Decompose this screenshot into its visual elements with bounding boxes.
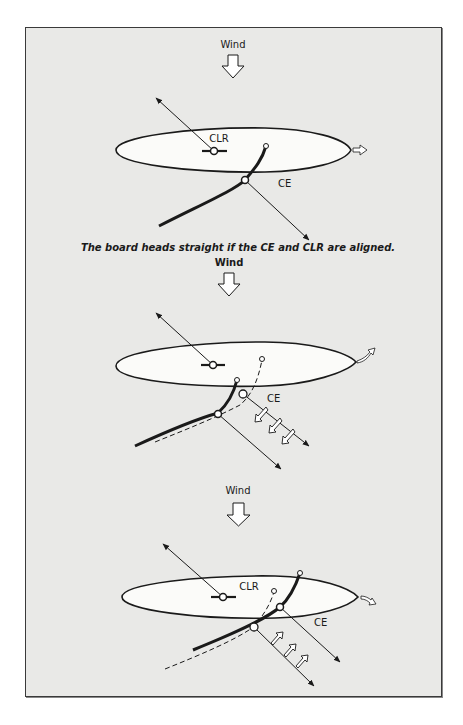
small-force-arrow-icon bbox=[282, 429, 295, 444]
wind-arrow-icon bbox=[218, 273, 240, 296]
ce-point-icon bbox=[239, 390, 247, 398]
turn-arrow-icon bbox=[361, 596, 376, 605]
sail-balance-diagram: Wind CLR CE The board heads straight if … bbox=[0, 0, 463, 725]
wind-arrow-icon bbox=[227, 503, 250, 526]
direction-arrow-icon bbox=[353, 145, 367, 155]
small-force-arrow-icon bbox=[255, 407, 268, 422]
mast-foot-icon bbox=[298, 571, 303, 576]
caption: The board heads straight if the CE and C… bbox=[81, 242, 395, 253]
old-ce-point-icon bbox=[250, 623, 258, 631]
clr-label: CLR bbox=[209, 133, 229, 144]
wind-label: Wind bbox=[225, 485, 250, 496]
panel-aligned: Wind CLR CE The board heads straight if … bbox=[81, 39, 395, 253]
small-force-arrow-icon bbox=[284, 644, 296, 657]
old-ce-point-icon bbox=[215, 411, 222, 418]
panel-ce-behind: Wind CE bbox=[116, 257, 375, 469]
mast-foot-icon bbox=[264, 144, 269, 149]
small-force-arrow-icon bbox=[269, 418, 282, 433]
mast-foot-prev-icon bbox=[260, 357, 265, 362]
wind-label: Wind bbox=[215, 257, 244, 268]
force-arrows bbox=[255, 407, 295, 444]
clr-point-icon bbox=[210, 362, 217, 369]
ce-point-icon bbox=[242, 177, 249, 184]
clr-point-icon bbox=[220, 594, 227, 601]
mast-foot-icon bbox=[235, 378, 240, 383]
old-ce-force-line bbox=[218, 414, 281, 469]
turn-arrow-icon bbox=[357, 348, 375, 363]
ce-label: CE bbox=[278, 178, 291, 189]
ce-point-icon bbox=[277, 604, 284, 611]
wind-label: Wind bbox=[220, 39, 245, 50]
mast-foot-prev-icon bbox=[272, 589, 277, 594]
clr-label: CLR bbox=[239, 581, 259, 592]
small-force-arrow-icon bbox=[271, 632, 283, 645]
clr-point-icon bbox=[211, 148, 218, 155]
wind-arrow-icon bbox=[222, 55, 244, 78]
panel-ce-ahead: Wind CLR CE bbox=[122, 485, 376, 686]
board-outline bbox=[116, 128, 351, 172]
ce-label: CE bbox=[267, 393, 280, 404]
ce-force-line bbox=[245, 180, 309, 240]
small-force-arrow-icon bbox=[296, 655, 308, 668]
ce-label: CE bbox=[314, 617, 327, 628]
